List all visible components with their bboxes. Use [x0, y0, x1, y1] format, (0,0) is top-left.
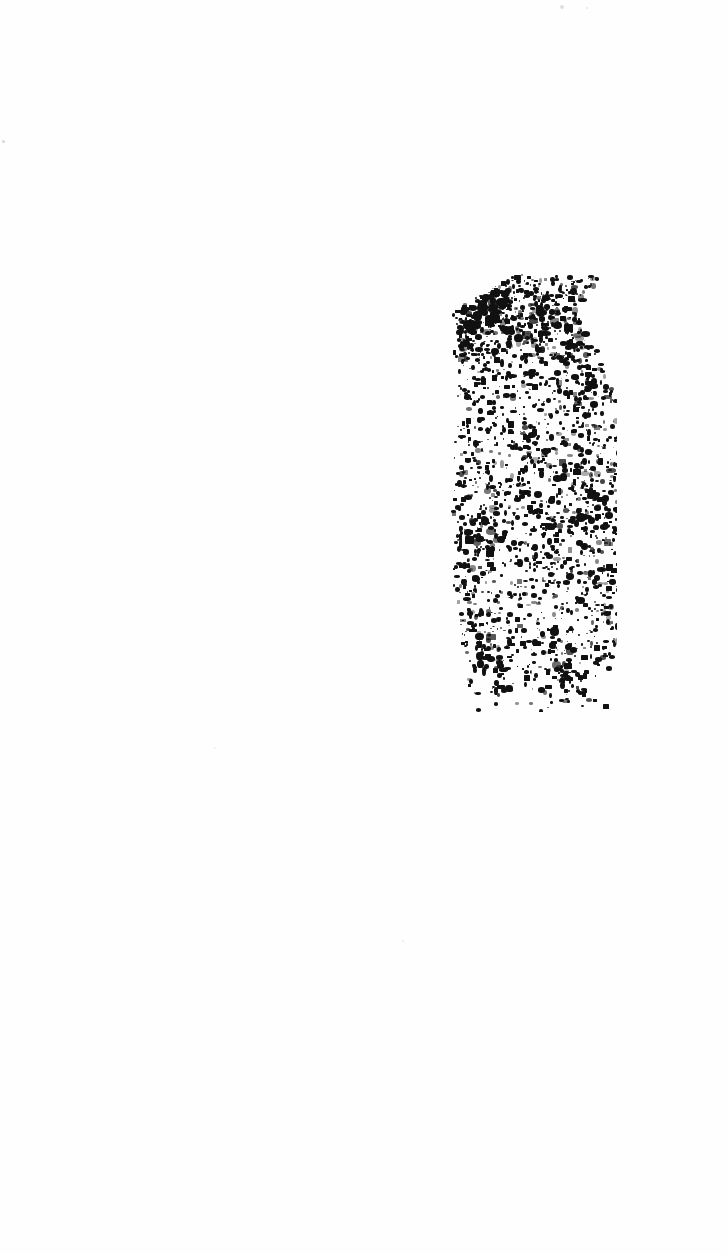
stray-speck [586, 7, 588, 9]
stray-speck [402, 940, 404, 942]
scanned-page [0, 0, 727, 1254]
stray-speck [2, 140, 5, 143]
degraded-ink-region [443, 274, 617, 712]
stray-speck [560, 5, 564, 9]
stray-speck [214, 747, 216, 749]
